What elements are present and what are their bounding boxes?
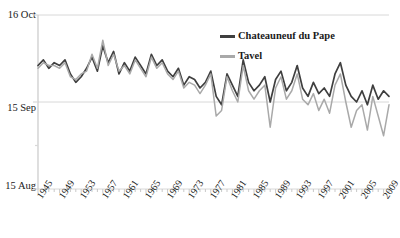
legend-item-chateauneuf: Chateauneuf du Pape [220, 31, 335, 42]
legend-label-chateauneuf: Chateauneuf du Pape [238, 31, 335, 42]
legend-swatch-chateauneuf [220, 35, 235, 38]
axis-ticks [33, 15, 389, 193]
legend-swatch-tavel [220, 55, 235, 58]
series-line-tavel [38, 40, 389, 135]
legend-label-tavel: Tavel [238, 51, 262, 62]
gridlines [38, 15, 389, 189]
legend-item-tavel: Tavel [220, 51, 262, 62]
data-series [38, 40, 389, 135]
